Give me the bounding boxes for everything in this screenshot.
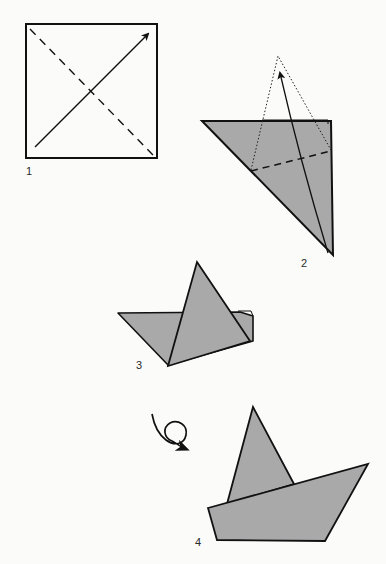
step-3-label: 3: [136, 360, 142, 371]
turn-over-icon: [152, 414, 186, 449]
paper-triangle: [202, 121, 333, 255]
step-2-figure: [202, 56, 333, 255]
step-1-label: 1: [26, 166, 32, 177]
step-2-label: 2: [301, 258, 307, 269]
step-1-figure: [26, 24, 157, 158]
origami-diagram: [0, 0, 386, 564]
step-3-figure: [118, 262, 253, 366]
step-4-figure: [208, 407, 368, 541]
step-4-label: 4: [195, 537, 201, 548]
